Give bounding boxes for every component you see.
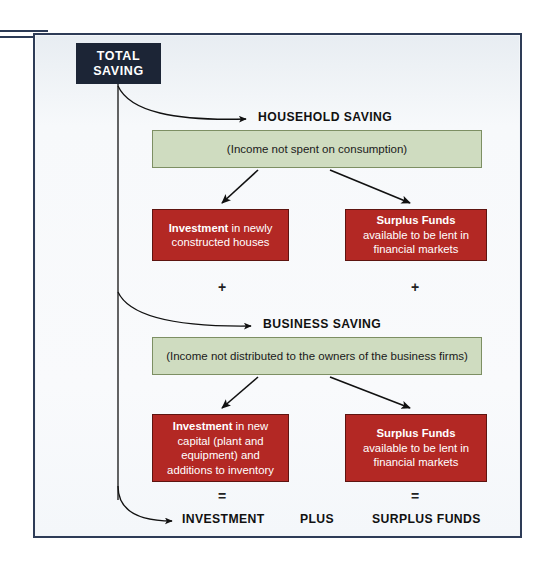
result-plus-label: PLUS xyxy=(300,512,334,526)
household-surplus-funds-box: Surplus Funds available to be lent in fi… xyxy=(345,209,487,261)
plus-operator-left: + xyxy=(212,279,232,295)
household-saving-definition-text: (Income not spent on consumption) xyxy=(227,142,407,157)
business-investment-lead: Investment xyxy=(173,420,233,432)
business-investment-box: Investment in new capital (plant and equ… xyxy=(152,414,289,482)
equals-operator-left: = xyxy=(212,488,232,504)
business-surplus-funds-box: Surplus Fundsavailable to be lent in fin… xyxy=(345,414,487,482)
household-investment-lead: Investment xyxy=(169,222,229,234)
total-saving-box: TOTAL SAVING xyxy=(76,43,161,84)
total-saving-line-2: SAVING xyxy=(93,64,144,78)
saving-flow-diagram: TOTAL SAVING HOUSEHOLD SAVING (Income no… xyxy=(0,0,551,574)
household-saving-heading: HOUSEHOLD SAVING xyxy=(258,110,392,124)
result-surplus-funds-label: SURPLUS FUNDS xyxy=(372,512,481,526)
left-edge-rule-top xyxy=(0,30,48,32)
plus-operator-right: + xyxy=(405,279,425,295)
household-surplus-rest: available to be lent in financial market… xyxy=(363,229,469,256)
total-saving-line-1: TOTAL xyxy=(97,49,141,63)
business-saving-definition-text: (Income not distributed to the owners of… xyxy=(166,349,468,364)
business-surplus-rest: available to be lent in financial market… xyxy=(363,442,469,469)
equals-operator-right: = xyxy=(405,488,425,504)
business-saving-heading: BUSINESS SAVING xyxy=(263,317,381,331)
household-saving-definition-box: (Income not spent on consumption) xyxy=(152,130,482,168)
business-saving-definition-box: (Income not distributed to the owners of… xyxy=(152,337,482,375)
result-investment-label: INVESTMENT xyxy=(182,512,265,526)
business-surplus-lead: Surplus Funds xyxy=(376,427,455,439)
household-investment-box: Investment in newly constructed houses xyxy=(152,209,289,261)
household-surplus-lead: Surplus Funds xyxy=(376,214,455,226)
